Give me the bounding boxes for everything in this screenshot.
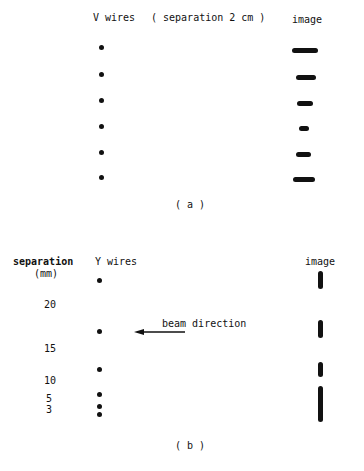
y-wire-image [318, 362, 323, 377]
beam-direction-arrow [0, 0, 364, 471]
beam-direction-label: beam direction [162, 318, 246, 330]
y-wire-image [318, 271, 323, 289]
y-wire-image [318, 386, 323, 422]
caption-b: ( b ) [175, 440, 205, 452]
y-wire-image [318, 320, 323, 338]
